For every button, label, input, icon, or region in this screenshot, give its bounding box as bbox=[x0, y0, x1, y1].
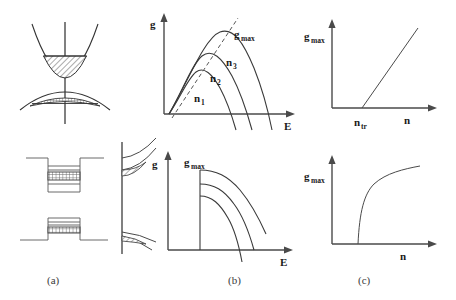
label-ntr-sub: tr bbox=[361, 122, 367, 131]
label-n3-sub: 3 bbox=[233, 62, 237, 71]
x-axis-arrow-icon bbox=[428, 104, 437, 111]
valence-filled-states bbox=[48, 227, 80, 233]
panel-bulk-gain-spectra: g max n 3 n 2 n 1 g E bbox=[148, 6, 300, 132]
label-gmax-base: g bbox=[234, 28, 240, 40]
label-gmax-base: g bbox=[184, 156, 190, 168]
label-n1-sub: 1 bbox=[201, 98, 205, 107]
y-axis-label-gmax-sub: max bbox=[311, 176, 325, 185]
y-axis-label-gmax-base: g bbox=[304, 170, 310, 182]
conduction-quantum-well bbox=[26, 158, 104, 192]
valence-population-fill bbox=[122, 236, 146, 244]
y-axis-label-g: g bbox=[152, 158, 158, 170]
x-axis-arrow-icon bbox=[428, 240, 437, 247]
x-axis-arrow-icon bbox=[284, 246, 293, 253]
panel-bulk-bands bbox=[8, 4, 154, 132]
y-axis-label-gmax-base: g bbox=[304, 30, 310, 42]
qw-gmax-svg: g max n bbox=[300, 150, 450, 268]
panel-bulk-gmax-vs-n: g max n tr n bbox=[300, 12, 450, 132]
label-n2-sub: 2 bbox=[217, 78, 221, 87]
electron-population-fill bbox=[44, 56, 87, 78]
label-gmax: g max bbox=[184, 156, 205, 171]
label-ntr: n tr bbox=[354, 116, 367, 131]
bulk-gain-spectra-svg: g max n 3 n 2 n 1 g E bbox=[148, 6, 300, 132]
valence-quantum-well bbox=[20, 218, 108, 240]
panel-qw-gmax-vs-n: g max n bbox=[300, 150, 450, 268]
y-axis-label-g: g bbox=[150, 18, 156, 30]
y-axis-arrow-icon bbox=[328, 19, 335, 28]
label-n1: n 1 bbox=[194, 92, 205, 107]
label-ntr-base: n bbox=[354, 116, 360, 128]
bulk-bands-svg bbox=[8, 4, 154, 132]
qw-gain-spectra-svg: g max g E bbox=[150, 146, 302, 268]
gmax-log-curve bbox=[358, 166, 420, 244]
caption-c: (c) bbox=[358, 274, 370, 286]
caption-b: (b) bbox=[228, 274, 241, 286]
y-axis-arrow-icon bbox=[164, 151, 171, 160]
label-gmax-sub: max bbox=[241, 34, 255, 43]
x-axis-label-n: n bbox=[400, 250, 406, 262]
x-axis-label-n: n bbox=[404, 114, 410, 126]
x-axis-arrow-icon bbox=[286, 110, 295, 117]
bulk-gmax-svg: g max n tr n bbox=[300, 12, 450, 132]
gmax-linear-line bbox=[362, 28, 418, 108]
label-n2: n 2 bbox=[210, 72, 221, 87]
label-n1-base: n bbox=[194, 92, 200, 104]
x-axis-label-E: E bbox=[280, 256, 287, 268]
label-n2-base: n bbox=[210, 72, 216, 84]
x-axis-label-E: E bbox=[284, 120, 291, 132]
gmax-locus-dashed-line bbox=[172, 18, 238, 118]
caption-a: (a) bbox=[47, 274, 59, 286]
y-axis-label-gmax: g max bbox=[304, 170, 325, 185]
label-n3-base: n bbox=[226, 56, 232, 68]
conduction-filled-states bbox=[48, 172, 80, 180]
figure-root: g max n 3 n 2 n 1 g E bbox=[0, 0, 456, 300]
panel-qw-gain-spectra: g max g E bbox=[150, 146, 302, 268]
y-axis-arrow-icon bbox=[160, 13, 167, 22]
y-axis-arrow-icon bbox=[328, 155, 335, 164]
y-axis-label-gmax: g max bbox=[304, 30, 325, 45]
y-axis-label-gmax-sub: max bbox=[311, 36, 325, 45]
label-gmax: g max bbox=[234, 28, 255, 43]
label-gmax-sub: max bbox=[191, 162, 205, 171]
